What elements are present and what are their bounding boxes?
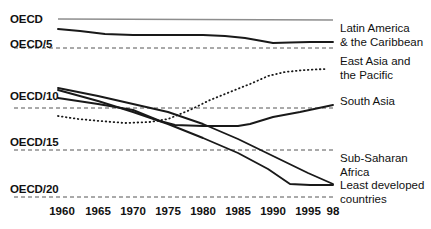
series-label-least-developed-countries-line2: countries xyxy=(340,193,424,207)
series-label-latin-america-line2: & the Caribbean xyxy=(340,36,423,50)
series-label-least-developed-countries-line1: Least developed xyxy=(340,179,424,193)
series-label-latin-america: Latin America & the Caribbean xyxy=(340,22,423,49)
series-label-east-asia-pacific-line2: the Pacific xyxy=(340,69,410,83)
series-label-latin-america-line1: Latin America xyxy=(340,22,423,36)
x-tick-label-1990: 1990 xyxy=(260,205,286,217)
x-tick-label-1965: 1965 xyxy=(85,205,111,217)
series-label-sub-saharan-africa-line1: Sub-Saharan xyxy=(340,152,408,166)
series-label-least-developed-countries: Least developed countries xyxy=(340,179,424,206)
series-label-east-asia-pacific: East Asia and the Pacific xyxy=(340,55,410,82)
series-label-south-asia-line1: South Asia xyxy=(340,95,395,109)
x-tick-label-1980: 1980 xyxy=(190,205,216,217)
x-tick-label-1970: 1970 xyxy=(120,205,146,217)
x-tick-label-1960: 1960 xyxy=(49,205,75,217)
x-tick-label-1975: 1975 xyxy=(155,205,181,217)
y-tick-label-oecd-5: OECD/5 xyxy=(10,38,52,50)
y-tick-label-oecd: OECD xyxy=(10,13,43,25)
series-label-sub-saharan-africa: Sub-Saharan Africa xyxy=(340,152,408,179)
series-line-oecd xyxy=(58,19,333,20)
y-tick-label-oecd-20: OECD/20 xyxy=(10,183,59,195)
y-tick-label-oecd-10: OECD/10 xyxy=(10,90,59,102)
series-line-latin-america xyxy=(58,29,333,43)
x-tick-label-98: 98 xyxy=(327,205,340,217)
x-tick-label-1995: 1995 xyxy=(295,205,321,217)
series-label-south-asia: South Asia xyxy=(340,95,395,109)
x-tick-label-1985: 1985 xyxy=(225,205,251,217)
gridlines xyxy=(14,48,333,197)
series-label-sub-saharan-africa-line2: Africa xyxy=(340,166,408,180)
series-label-east-asia-pacific-line1: East Asia and xyxy=(340,55,410,69)
line-chart: OECD OECD/5 OECD/10 OECD/15 OECD/20 1960… xyxy=(0,0,431,229)
y-tick-label-oecd-15: OECD/15 xyxy=(10,136,59,148)
